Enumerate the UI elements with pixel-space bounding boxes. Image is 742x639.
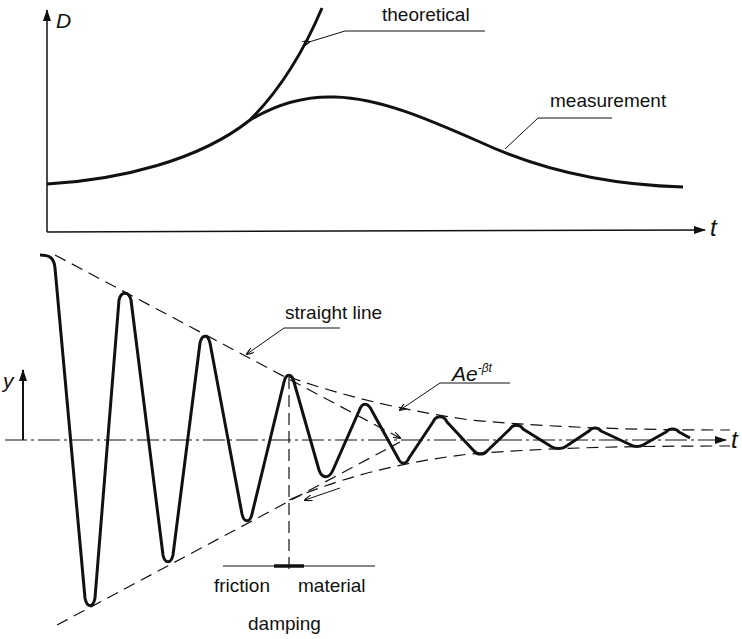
theoretical-leader <box>309 31 485 42</box>
top-chart <box>47 8 705 232</box>
top-x-axis-label: t <box>710 216 717 240</box>
measurement-leader <box>505 118 612 149</box>
friction-label: friction <box>214 576 270 595</box>
exponential-base: Ae <box>452 362 478 385</box>
bottom-y-axis-label: y <box>3 370 14 391</box>
exponential-exponent: -βt <box>478 361 492 375</box>
lower-straight-envelope <box>57 442 400 625</box>
top-y-axis-label: D <box>56 10 71 31</box>
straight-line-label: straight line <box>285 303 382 322</box>
bottom-x-axis-label: t <box>731 428 738 452</box>
material-label: material <box>298 576 366 595</box>
exponential-leader <box>400 383 510 410</box>
exponential-label: Ae-βt <box>452 362 492 384</box>
top-x-axis <box>47 230 705 232</box>
theoretical-label: theoretical <box>382 5 470 24</box>
straight-line-leader <box>247 328 340 354</box>
damping-label: damping <box>248 614 321 633</box>
upper-straight-envelope <box>55 255 400 438</box>
lower-exponential-envelope <box>289 446 730 500</box>
measurement-label: measurement <box>550 91 666 110</box>
